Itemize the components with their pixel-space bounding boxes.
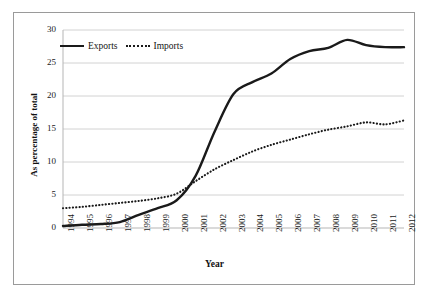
x-tick-label: 2007	[313, 214, 322, 232]
legend-label-exports: Exports	[88, 41, 118, 51]
y-tick-label: 0	[34, 223, 56, 232]
y-tick-label: 25	[34, 58, 56, 67]
x-tick-label: 1997	[124, 214, 133, 232]
x-tick-label: 2003	[238, 214, 247, 232]
y-axis-title: As percentage of total	[29, 75, 39, 195]
x-tick-label: 2010	[370, 214, 379, 232]
x-axis-title: Year	[0, 259, 429, 269]
chart-figure: 051015202530 199419951996199719981999200…	[0, 0, 429, 296]
x-tick-label: 2011	[389, 214, 398, 232]
legend-line-dotted-icon	[126, 45, 150, 47]
x-tick-label: 1999	[162, 214, 171, 232]
legend-label-imports: Imports	[154, 41, 184, 51]
x-tick-label: 2012	[408, 214, 417, 232]
x-tick-label: 1996	[105, 214, 114, 232]
gridlines-group	[63, 30, 404, 228]
x-tick-label: 1998	[143, 214, 152, 232]
x-tick-label: 2005	[275, 214, 284, 232]
x-tick-label: 2002	[219, 214, 228, 232]
legend-line-solid-icon	[60, 45, 84, 47]
x-tick-label: 2004	[256, 214, 265, 232]
legend-item-imports: Imports	[126, 41, 184, 51]
legend-item-exports: Exports	[60, 41, 118, 51]
x-tick-label: 2009	[351, 214, 360, 232]
x-tick-label: 2000	[181, 214, 190, 232]
x-tick-label: 2006	[294, 214, 303, 232]
y-tick-label: 30	[34, 25, 56, 34]
x-tick-label: 1994	[67, 214, 76, 232]
series-line-exports	[63, 40, 404, 226]
series-group	[63, 40, 404, 226]
x-tick-label: 2008	[332, 214, 341, 232]
chart-legend: Exports Imports	[60, 41, 183, 51]
x-tick-label: 2001	[200, 214, 209, 232]
x-tick-label: 1995	[86, 214, 95, 232]
